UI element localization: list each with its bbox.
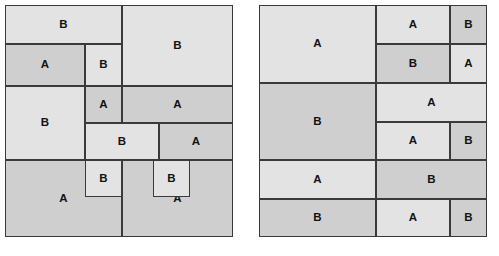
partition-cell-b: B bbox=[259, 83, 376, 160]
cell-label: A bbox=[427, 97, 436, 109]
partition-cell-b: B bbox=[153, 160, 190, 197]
partition-cell-a: A bbox=[259, 160, 376, 199]
cell-label: A bbox=[41, 59, 50, 71]
partition-cell-b: B bbox=[450, 122, 487, 160]
cell-label: A bbox=[409, 212, 418, 224]
cell-label: B bbox=[167, 173, 176, 185]
partition-cell-a: A bbox=[450, 44, 487, 83]
cell-label: B bbox=[313, 212, 322, 224]
cell-label: B bbox=[99, 173, 108, 185]
cell-label: B bbox=[409, 58, 418, 70]
partition-cell-b: B bbox=[5, 5, 122, 44]
partition-cell-a: A bbox=[376, 199, 450, 237]
partition-cell-b: B bbox=[122, 5, 233, 86]
figure-canvas: BABBBAABAABAB AABBABAABABBAB bbox=[0, 0, 499, 256]
partition-cell-b: B bbox=[376, 44, 450, 83]
right-partition-panel: AABBABAABABBAB bbox=[259, 5, 487, 237]
cell-label: B bbox=[41, 117, 50, 129]
cell-label: A bbox=[409, 19, 418, 31]
cell-label: A bbox=[59, 193, 68, 205]
cell-label: B bbox=[464, 135, 473, 147]
cell-label: A bbox=[173, 99, 182, 111]
partition-cell-a: A bbox=[376, 83, 487, 122]
partition-cell-b: B bbox=[450, 5, 487, 44]
partition-cell-b: B bbox=[85, 44, 122, 86]
partition-cell-a: A bbox=[85, 86, 122, 123]
cell-label: A bbox=[409, 135, 418, 147]
cell-label: A bbox=[313, 174, 322, 186]
partition-cell-b: B bbox=[85, 160, 122, 197]
cell-label: B bbox=[427, 174, 436, 186]
partition-cell-b: B bbox=[85, 123, 159, 160]
partition-cell-a: A bbox=[122, 86, 233, 123]
partition-cell-a: A bbox=[259, 5, 376, 83]
cell-label: B bbox=[59, 19, 68, 31]
partition-cell-b: B bbox=[376, 160, 487, 199]
cell-label: B bbox=[99, 59, 108, 71]
cell-label: B bbox=[464, 212, 473, 224]
cell-label: A bbox=[464, 58, 473, 70]
cell-label: A bbox=[313, 38, 322, 50]
partition-cell-a: A bbox=[376, 122, 450, 160]
partition-cell-a: A bbox=[159, 123, 233, 160]
partition-cell-b: B bbox=[259, 199, 376, 237]
cell-label: B bbox=[313, 116, 322, 128]
partition-cell-b: B bbox=[5, 86, 85, 160]
partition-cell-b: B bbox=[450, 199, 487, 237]
partition-cell-a: A bbox=[5, 44, 85, 86]
partition-cell-a: A bbox=[376, 5, 450, 44]
cell-label: B bbox=[464, 19, 473, 31]
left-partition-panel: BABBBAABAABAB bbox=[5, 5, 233, 237]
cell-label: A bbox=[99, 99, 108, 111]
cell-label: A bbox=[192, 136, 201, 148]
cell-label: B bbox=[173, 40, 182, 52]
cell-label: B bbox=[118, 136, 127, 148]
